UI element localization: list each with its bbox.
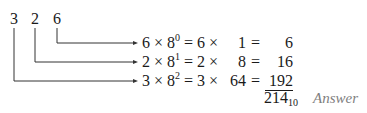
- equation-row-2: 3 × 82 = 3 ×: [142, 72, 218, 90]
- answer-label: Answer: [313, 89, 358, 107]
- row-times: 6 ×: [197, 34, 218, 51]
- sum-total: 21410: [264, 89, 298, 107]
- row-base: 8: [167, 34, 175, 51]
- total-value: 214: [264, 89, 288, 106]
- place-value-0: 1: [226, 34, 246, 52]
- row-times: 3 ×: [197, 72, 218, 89]
- row-base: 8: [167, 72, 175, 89]
- row-digit: 6: [142, 34, 150, 51]
- row-power: 0: [175, 32, 180, 43]
- equals-2: =: [251, 72, 260, 90]
- equation-row-0: 6 × 80 = 6 ×: [142, 34, 218, 52]
- result-1: 16: [265, 53, 293, 71]
- place-value-1: 8: [226, 53, 246, 71]
- row-power: 1: [175, 51, 180, 62]
- row-digit: 3: [142, 72, 150, 89]
- equals-1: =: [251, 53, 260, 71]
- row-base: 8: [167, 53, 175, 70]
- result-0: 6: [265, 34, 293, 52]
- equation-row-1: 2 × 81 = 2 ×: [142, 53, 218, 71]
- row-times: 2 ×: [197, 53, 218, 70]
- row-digit: 2: [142, 53, 150, 70]
- row-power: 2: [175, 70, 180, 81]
- equals-0: =: [251, 34, 260, 52]
- total-base: 10: [288, 97, 298, 108]
- place-value-2: 64: [226, 72, 246, 90]
